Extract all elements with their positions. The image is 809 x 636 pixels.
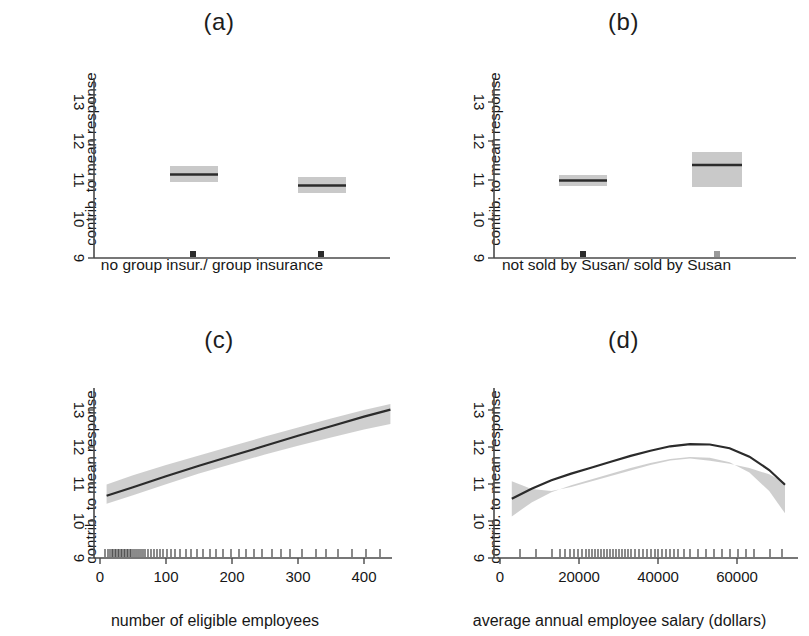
panel-a-rug-mark (190, 251, 196, 257)
panel-b-ytick-11: 11 (471, 172, 488, 188)
panel-d-ytick-9: 9 (471, 554, 488, 562)
panel-c-y-ticks (88, 410, 94, 558)
panel-a: (a) contrib. to mean response no group i… (0, 0, 404, 318)
panel-c-xtick-0: 0 (96, 568, 104, 585)
panel-d-xtick-40000: 40000 (637, 568, 679, 585)
panel-d-y-ticks (488, 410, 494, 558)
panel-d-ytick-10: 10 (471, 513, 488, 530)
panel-b-ytick-9: 9 (471, 254, 488, 262)
panel-a-ytick-13: 13 (71, 94, 88, 111)
panel-c-ytick-12: 12 (71, 439, 88, 456)
panel-b: (b) contrib. to mean response not sold b… (404, 0, 809, 318)
panel-a-ytick-10: 10 (71, 211, 88, 228)
panel-b-ytick-10: 10 (471, 211, 488, 228)
panel-c-rug (105, 549, 380, 557)
panel-c-plot: 9 10 11 12 13 0 100 200 300 400 (0, 318, 404, 636)
panel-c-ci-band (107, 404, 391, 504)
panel-d-rug (520, 549, 782, 557)
panel-b-plot: 9 10 11 12 13 (404, 0, 809, 318)
panel-a-y-ticks (88, 102, 94, 258)
panel-d-ci-band (512, 457, 785, 516)
panel-b-rug-mark (714, 251, 720, 257)
panel-c-xtick-100: 100 (153, 568, 178, 585)
panel-b-rug-mark (580, 251, 586, 257)
panel-d-xtick-0: 0 (496, 568, 504, 585)
panel-c-ytick-10: 10 (71, 513, 88, 530)
panel-c-ytick-13: 13 (71, 402, 88, 419)
panel-d-ytick-11: 11 (471, 476, 488, 492)
panel-c-xtick-400: 400 (351, 568, 376, 585)
panel-c-ytick-9: 9 (71, 554, 88, 562)
panel-c-xtick-200: 200 (219, 568, 244, 585)
panel-b-ytick-12: 12 (471, 133, 488, 150)
panel-d-xtick-20000: 20000 (558, 568, 600, 585)
panel-d: (d) contrib. to mean response average an… (404, 318, 809, 636)
panel-a-rug-mark (318, 251, 324, 257)
panel-b-y-ticks (488, 102, 494, 258)
panel-c-ytick-11: 11 (71, 476, 88, 492)
figure-partial-effects: (a) contrib. to mean response no group i… (0, 0, 809, 636)
panel-a-ytick-9: 9 (71, 254, 88, 262)
panel-c: (c) contrib. to mean response number of … (0, 318, 404, 636)
panel-d-ytick-12: 12 (471, 439, 488, 456)
panel-c-xtick-300: 300 (285, 568, 310, 585)
panel-d-plot: 9 10 11 12 13 0 20000 40000 60000 (404, 318, 809, 636)
panel-b-ytick-13: 13 (471, 94, 488, 111)
panel-d-xtick-60000: 60000 (716, 568, 758, 585)
panel-c-x-ticks (100, 558, 364, 564)
panel-d-ytick-13: 13 (471, 402, 488, 419)
panel-d-x-ticks (500, 558, 737, 564)
panel-b-ci-band-2 (692, 152, 742, 187)
panel-a-plot: 9 10 11 12 13 (0, 0, 404, 318)
panel-d-fit-line (512, 444, 785, 499)
panel-a-ytick-12: 12 (71, 133, 88, 150)
panel-a-ytick-11: 11 (71, 172, 88, 188)
